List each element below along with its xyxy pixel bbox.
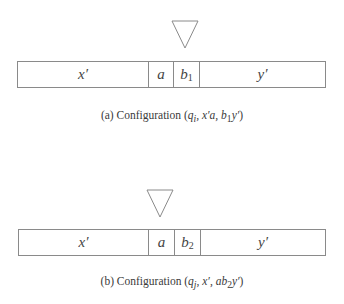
cell-label: a bbox=[158, 234, 166, 251]
caption-prefix: (b) Configuration ( bbox=[101, 275, 189, 287]
caption-right-b: ab bbox=[216, 275, 228, 287]
tape-cell-y-prime: y′ bbox=[200, 230, 325, 255]
tape-head-triangle-icon bbox=[146, 189, 174, 219]
cell-subscript: 2 bbox=[189, 240, 194, 251]
caption-b: (b) Configuration (qj, x′, ab2y′) bbox=[0, 275, 344, 290]
caption-suffix: ) bbox=[240, 275, 244, 287]
cell-label: x′ bbox=[79, 234, 89, 251]
tape-cell-x-prime: x′ bbox=[19, 230, 148, 255]
tape: x′ a b2 y′ bbox=[18, 229, 326, 256]
panel-b: x′ a b2 y′ (b) Configuration (qj, x′, ab… bbox=[0, 0, 344, 304]
caption-right-rest: y′ bbox=[232, 275, 240, 287]
tape-cell-a: a bbox=[148, 230, 174, 255]
cell-label: y′ bbox=[258, 234, 268, 251]
caption-left-tape: , x′, bbox=[197, 275, 216, 287]
cell-label: b bbox=[181, 234, 189, 251]
tape-cell-b2: b2 bbox=[174, 230, 200, 255]
